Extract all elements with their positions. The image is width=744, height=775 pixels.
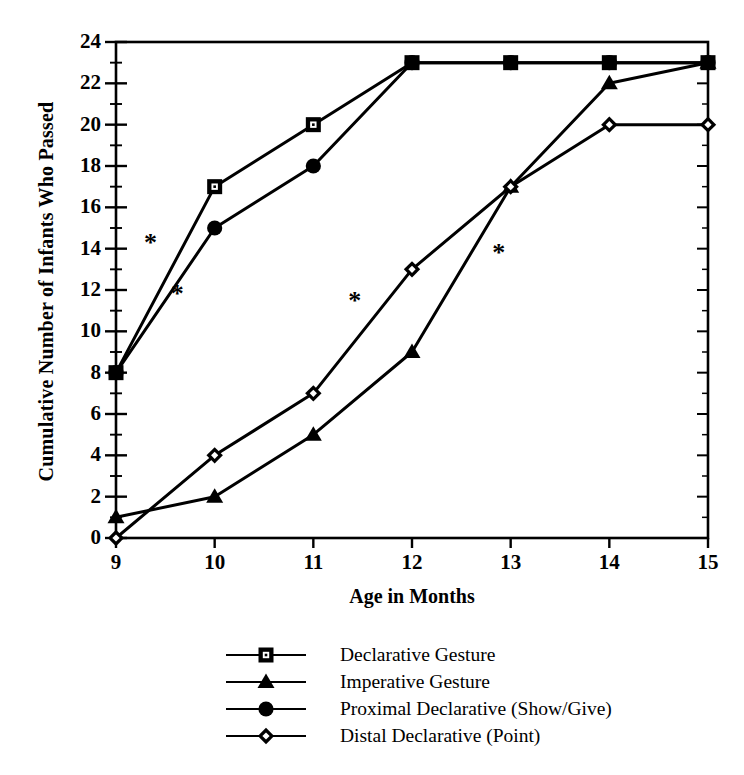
- marker-filled-circle: [404, 55, 419, 70]
- y-axis-tick-label: 24: [55, 31, 101, 52]
- marker-filled-circle: [602, 55, 617, 70]
- legend-marker-icon: [222, 724, 310, 748]
- y-axis-tick-label: 8: [55, 362, 101, 383]
- marker-core: [312, 123, 315, 126]
- series-line: [116, 63, 708, 373]
- chart-figure: Cumulative Number of Infants Who Passed …: [0, 0, 744, 775]
- x-axis-tick-label: 11: [291, 552, 335, 573]
- marker-filled-circle: [700, 55, 715, 70]
- legend-marker-icon: [222, 697, 310, 721]
- y-axis-tick-label: 20: [55, 114, 101, 135]
- marker-filled-triangle: [258, 673, 275, 688]
- series-3: [108, 116, 716, 546]
- y-axis-tick-label: 22: [55, 72, 101, 93]
- legend-item-0[interactable]: Declarative Gesture: [222, 641, 722, 668]
- marker-core: [265, 653, 268, 656]
- legend-marker-sample: [222, 643, 310, 667]
- legend-item-3[interactable]: Distal Declarative (Point): [222, 722, 722, 749]
- legend-item-label: Proximal Declarative (Show/Give): [310, 698, 612, 720]
- y-axis-tick-label: 2: [55, 486, 101, 507]
- legend-marker-icon: [222, 643, 310, 667]
- x-axis-tick-label: 13: [489, 552, 533, 573]
- series-0: [109, 55, 716, 380]
- y-axis-tick-label: 12: [55, 279, 101, 300]
- marker-filled-circle: [108, 365, 123, 380]
- legend-marker-sample: [222, 670, 310, 694]
- marker-core: [213, 185, 216, 188]
- legend-item-2[interactable]: Proximal Declarative (Show/Give): [222, 695, 722, 722]
- x-axis-tick-label: 10: [193, 552, 237, 573]
- legend-item-label: Distal Declarative (Point): [310, 725, 540, 747]
- y-axis-tick-label: 10: [55, 320, 101, 341]
- y-axis-tick-label: 4: [55, 444, 101, 465]
- marker-filled-circle: [258, 701, 273, 716]
- significance-asterisk: *: [171, 279, 184, 308]
- y-axis-tick-label: 16: [55, 196, 101, 217]
- significance-asterisk: *: [144, 228, 157, 257]
- y-axis-tick-label: 18: [55, 155, 101, 176]
- x-axis-tick-label: 12: [390, 552, 434, 573]
- plot-area: ****: [0, 0, 744, 620]
- legend-item-label: Imperative Gesture: [310, 671, 490, 693]
- y-axis-tick-label: 6: [55, 403, 101, 424]
- legend-marker-sample: [222, 697, 310, 721]
- marker-filled-circle: [503, 55, 518, 70]
- legend-marker-icon: [222, 670, 310, 694]
- marker-filled-circle: [207, 220, 222, 235]
- significance-asterisk: *: [348, 286, 361, 315]
- series-line: [116, 125, 708, 538]
- chart-legend: Declarative GestureImperative GesturePro…: [222, 641, 722, 749]
- x-axis-tick-label: 15: [686, 552, 730, 573]
- marker-filled-triangle: [206, 488, 223, 503]
- legend-item-1[interactable]: Imperative Gesture: [222, 668, 722, 695]
- marker-filled-triangle: [404, 344, 421, 359]
- y-axis-tick-label: 0: [55, 527, 101, 548]
- x-axis-tick-label: 9: [94, 552, 138, 573]
- marker-filled-circle: [306, 158, 321, 173]
- y-axis-tick-label: 14: [55, 238, 101, 259]
- legend-item-label: Declarative Gesture: [310, 644, 495, 666]
- significance-asterisk: *: [492, 238, 505, 267]
- legend-marker-sample: [222, 724, 310, 748]
- series-line: [116, 63, 708, 373]
- series-line: [116, 63, 708, 518]
- x-axis-title: Age in Months: [116, 585, 708, 608]
- x-axis-tick-label: 14: [587, 552, 631, 573]
